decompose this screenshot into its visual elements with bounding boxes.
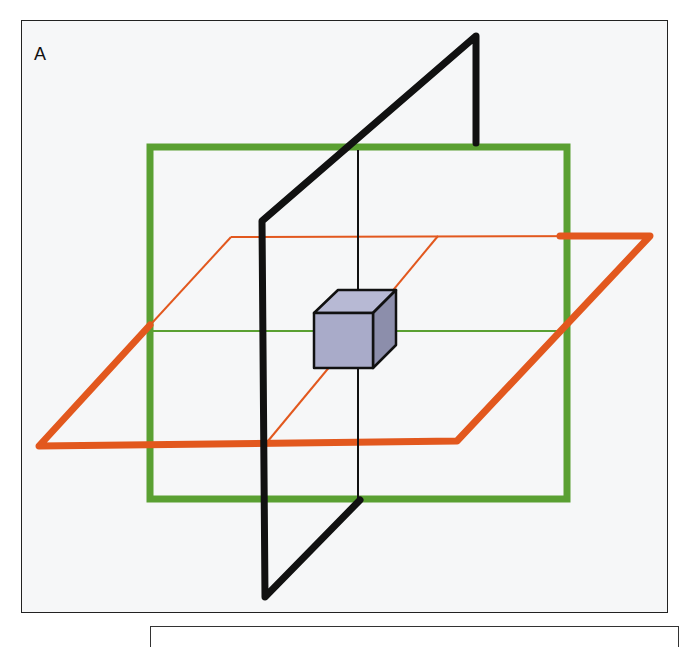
cube-icon bbox=[314, 290, 396, 368]
